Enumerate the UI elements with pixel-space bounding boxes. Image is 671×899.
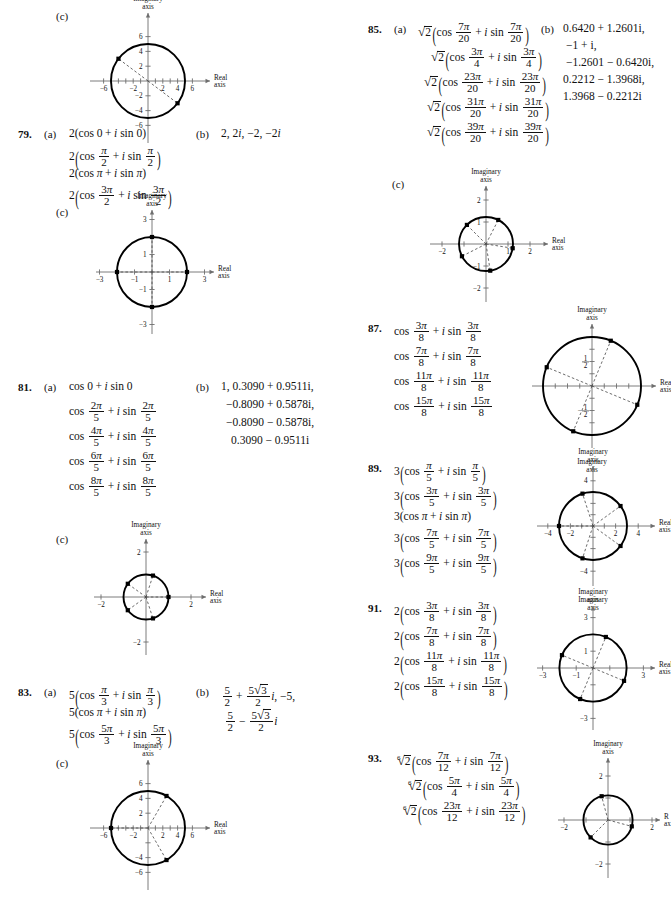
part-label-b-81: (b)	[196, 381, 209, 393]
svg-text:1: 1	[477, 219, 481, 227]
argand-chart-83c: −6−2246642−4−6ImaginaryaxisRealaxis	[88, 753, 238, 893]
answer-89-line5: 3(cos 9π5+i sin 9π5)	[394, 552, 497, 575]
svg-text:4: 4	[584, 477, 588, 485]
svg-text:2: 2	[528, 248, 532, 256]
answer-79a-line3: 2(cos π+i sin π)	[69, 168, 146, 180]
svg-text:2: 2	[139, 810, 143, 818]
answer-85a-line3: √2(cos 23π20+i sin 23π20)	[424, 71, 546, 94]
svg-text:6: 6	[139, 33, 143, 41]
argand-chart-89: −4−2244−4ImaginaryaxisRealaxisImaginarya…	[535, 458, 671, 600]
svg-text:2: 2	[189, 601, 193, 609]
answer-93-line2: 6√2(cos 5π4+i sin 5π4)	[405, 775, 520, 798]
svg-text:axis: axis	[142, 750, 154, 758]
part-label-c-79: (c)	[56, 206, 68, 218]
svg-text:−6: −6	[100, 832, 108, 840]
svg-text:−2: −2	[129, 85, 137, 93]
svg-text:−4: −4	[544, 530, 552, 538]
svg-text:2: 2	[161, 832, 165, 840]
part-label-a-85: (a)	[394, 23, 406, 35]
svg-text:axis: axis	[552, 244, 564, 252]
svg-text:−1: −1	[572, 672, 580, 680]
argand-chart-91: −3−1331−3ImaginaryaxisRealaxis	[535, 598, 671, 740]
svg-text:axis: axis	[587, 596, 599, 604]
answer-81a-line3: cos 4π5+i sin 4π5	[69, 425, 157, 448]
svg-text:2: 2	[599, 773, 603, 781]
answer-85b-line3: −1.2601 − 0.6420i,	[566, 57, 654, 69]
svg-text:1: 1	[168, 276, 172, 284]
svg-text:axis: axis	[146, 200, 158, 208]
svg-text:6: 6	[139, 780, 143, 788]
svg-text:6: 6	[191, 85, 195, 93]
svg-text:−3: −3	[96, 276, 104, 284]
svg-text:axis: axis	[602, 748, 614, 756]
svg-text:axis: axis	[586, 314, 598, 322]
answer-81a-line5: cos 8π5+i sin 8π5	[69, 475, 157, 498]
svg-text:4: 4	[636, 530, 640, 538]
answer-91-line1: 2(cos 3π8+i sin 3π8)	[394, 600, 497, 623]
svg-text:2: 2	[139, 63, 143, 71]
answer-85b-line4: 0.2212 − 1.3968i,	[563, 74, 645, 86]
svg-text:−6: −6	[135, 869, 143, 877]
answer-79b: 2, 2i, −2, −2i	[221, 128, 281, 140]
problem-number-81: 81.	[18, 381, 32, 393]
svg-text:axis: axis	[587, 456, 599, 464]
svg-text:1: 1	[506, 248, 510, 256]
part-label-a-81: (a)	[44, 381, 56, 393]
problem-number-87: 87.	[368, 322, 382, 334]
answer-83b-line1: 52+5√32i, −5,	[221, 683, 295, 708]
argand-chart-87: 12−12ImaginaryaxisRealaxisImaginaryaxis	[530, 318, 666, 468]
argand-chart-77c: −6−2246642−2−4−6ImaginaryaxisRealaxis	[88, 6, 238, 146]
svg-text:axis: axis	[142, 3, 154, 11]
answer-81b-line2: −0.8090 + 0.5878i,	[226, 399, 314, 411]
svg-text:−4: −4	[135, 107, 143, 115]
svg-text:−: −	[577, 407, 581, 415]
part-label-c-81: (c)	[56, 533, 68, 545]
svg-text:4: 4	[139, 48, 143, 56]
answer-89-line3: 3(cos π+i sin π)	[394, 511, 471, 523]
answer-81b-line3: −0.8090 − 0.5878i,	[226, 417, 314, 429]
svg-text:−2: −2	[97, 601, 105, 609]
svg-text:−2: −2	[473, 285, 481, 293]
svg-text:−3: −3	[139, 321, 147, 329]
answer-81b-line4: 0.3090 − 0.9511i	[231, 435, 309, 447]
svg-text:4: 4	[176, 832, 180, 840]
answer-79a-line2: 2(cos π2+i sin π2)	[69, 145, 161, 168]
answer-81a-line4: cos 6π5+i sin 6π5	[69, 450, 157, 473]
svg-text:2: 2	[161, 85, 165, 93]
answer-93-line3: 6√2(cos 23π12+i sin 23π12)	[400, 800, 526, 823]
svg-text:3: 3	[143, 216, 147, 224]
problem-number-89: 89.	[368, 462, 382, 474]
answer-79a-line1: 2(cos 0+i sin 0)	[69, 128, 146, 140]
part-label-b-83: (b)	[196, 686, 209, 698]
svg-text:2: 2	[477, 197, 481, 205]
part-label-c-83: (c)	[56, 757, 68, 769]
answer-83b-line2: 52−5√32i	[224, 708, 277, 733]
svg-text:−3: −3	[539, 672, 547, 680]
svg-text:−2: −2	[567, 530, 575, 538]
answer-85a-line5: √2(cos 39π20+i sin 39π20)	[427, 121, 549, 144]
answer-87-line3: cos 11π8+i sin 11π8	[394, 370, 492, 393]
part-label-c-77: (c)	[56, 10, 68, 22]
svg-text:4: 4	[139, 795, 143, 803]
answer-81b-line1: 1, 0.3090 + 0.9511i,	[221, 381, 314, 393]
svg-text:3: 3	[642, 672, 646, 680]
svg-text:−1: −1	[131, 276, 139, 284]
argand-chart-79c: −3−11331−1−3ImaginaryaxisRealaxis	[94, 202, 244, 334]
svg-text:−4: −4	[580, 568, 588, 576]
answer-93-line1: 6√2(cos 7π12+i sin 7π12)	[394, 750, 509, 773]
svg-text:3: 3	[203, 276, 207, 284]
answer-85a-line2: √2(cos 3π4+i sin 3π4)	[431, 46, 542, 69]
svg-text:−1: −1	[139, 286, 147, 294]
part-label-c-85: (c)	[392, 178, 404, 190]
problem-number-79: 79.	[18, 128, 32, 140]
argand-chart-85c: −21221−1−2ImaginaryaxisRealaxis	[428, 174, 578, 306]
svg-text:4: 4	[176, 85, 180, 93]
svg-text:−6: −6	[100, 85, 108, 93]
svg-text:2: 2	[584, 411, 588, 419]
answer-89-line4: 3(cos 7π5+i sin 7π5)	[394, 527, 497, 550]
answer-83a-line1: 5(cos π3+i sin π3)	[69, 684, 161, 707]
problem-number-83: 83.	[18, 686, 32, 698]
answer-85b-line5: 1.3968 − 0.2212i	[563, 91, 642, 103]
answer-87-line4: cos 15π8+i sin 15π8	[394, 395, 493, 418]
answer-91-line3: 2(cos 11π8+i sin 11π8)	[394, 650, 507, 673]
